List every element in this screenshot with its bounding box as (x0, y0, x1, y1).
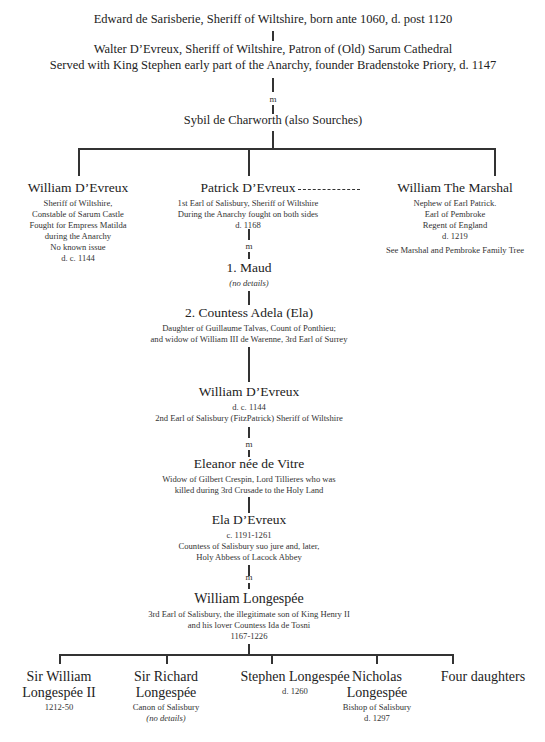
edward-de-sarisberie: Edward de Sarisberie, Sheriff of Wiltshi… (94, 12, 453, 27)
william-devreux-2nd-earl: William D’Evreux (199, 384, 299, 400)
person-name: William D’Evreux (28, 180, 128, 196)
connector-line (452, 654, 454, 664)
william-longespee: William Longespée (194, 590, 303, 607)
connector-line (166, 654, 168, 664)
connector-line (271, 654, 273, 664)
maud: 1. Maud (227, 260, 272, 276)
connector-line (248, 497, 250, 513)
relation-dashed-line (298, 189, 360, 190)
no-details-note: (no details) (229, 278, 268, 289)
marriage-marker: m (245, 572, 252, 582)
connector-line (248, 229, 250, 240)
marriage-marker: m (245, 241, 252, 251)
cross-reference-note: See Marshal and Pembroke Family Tree (386, 245, 524, 256)
walter-devreux-line2: Served with King Stephen early part of t… (50, 58, 496, 73)
person-name: William The Marshal (397, 180, 512, 196)
connector-line (248, 583, 250, 589)
sibling-bar (59, 654, 453, 656)
connector-line (376, 654, 378, 664)
connector-line (248, 427, 250, 438)
walter-devreux-line1: Walter D’Evreux, Sheriff of Wiltshire, P… (94, 42, 453, 57)
connector-line (272, 31, 274, 41)
connector-line (78, 148, 80, 176)
no-details-note: (no details) (146, 713, 185, 724)
marriage-marker: m (269, 94, 276, 104)
connector-line (59, 654, 61, 664)
person-name: Patrick D’Evreux (201, 180, 296, 196)
connector-line (248, 347, 250, 382)
connector-line (272, 78, 274, 92)
connector-line (248, 148, 250, 176)
sibling-bar (78, 148, 495, 150)
countess-adela: 2. Countess Adela (Ela) (185, 305, 313, 321)
connector-line (494, 148, 496, 176)
ela-devreux: Ela D’Evreux (212, 512, 287, 528)
connector-line (248, 252, 250, 259)
marriage-marker: m (245, 439, 252, 449)
connector-line (248, 291, 250, 305)
eleanor-de-vitre: Eleanor née de Vitre (194, 456, 304, 472)
sybil-de-charworth: Sybil de Charworth (also Sourches) (184, 113, 362, 128)
connector-line (272, 131, 274, 149)
